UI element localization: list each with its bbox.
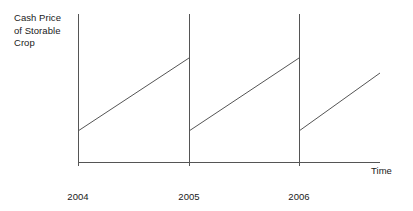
x-axis-title: Time bbox=[371, 165, 392, 178]
chart-figure: Cash Price of Storable Crop 2004 Harvest… bbox=[0, 0, 413, 211]
x-tick-label-2004-year: 2004 bbox=[43, 191, 113, 204]
x-tick-label-2004-harvest: 2004 Harvest bbox=[43, 166, 113, 211]
y-axis-title: Cash Price of Storable Crop bbox=[14, 12, 61, 50]
x-tick-label-2006-harvest: 2006 Harvest bbox=[264, 166, 334, 211]
x-tick-label-2005-harvest: 2005 Harvest bbox=[154, 166, 224, 211]
x-tick-label-2005-year: 2005 bbox=[154, 191, 224, 204]
x-tick-label-2006-year: 2006 bbox=[264, 191, 334, 204]
